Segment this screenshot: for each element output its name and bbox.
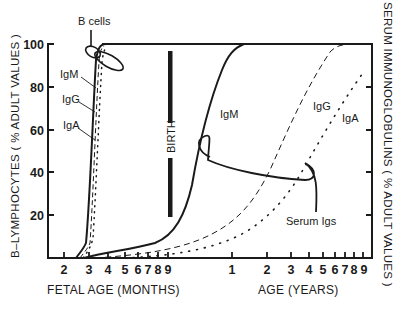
b-cell-igm-label: IgM	[60, 68, 78, 80]
x-tick-year-4: 4	[306, 263, 313, 277]
serum-iga-label: IgA	[342, 112, 359, 124]
b-cell-iga-label: IgA	[63, 119, 80, 131]
y-tick-80: 80	[30, 81, 44, 95]
x-tick-fetal-4: 4	[105, 263, 112, 277]
x-tick-year-5: 5	[320, 263, 327, 277]
x-axis-title-years: AGE (YEARS)	[258, 283, 339, 297]
b-cell-curves	[76, 44, 106, 258]
x-tick-year-8: 8	[351, 263, 358, 277]
b-cells-label: B cells	[78, 15, 111, 27]
x-tick-fetal-3: 3	[86, 263, 93, 277]
x-tick-fetal-6: 6	[135, 263, 142, 277]
birth-bar-bottom	[168, 158, 173, 217]
left-y-axis-title: B–LYMPHOCYTES ( % ADULT VALUES )	[9, 34, 21, 258]
x-tick-fetal-9: 9	[165, 263, 172, 277]
x-tick-year-1: 1	[229, 263, 236, 277]
serum-iga-curve	[125, 70, 365, 258]
birth-bar-top	[168, 51, 173, 123]
right-y-axis-title: SERUM IMMUNOGLOBULINS ( % ADULT VALUES )	[382, 2, 394, 287]
x-axis-title-fetal: FETAL AGE (MONTHS)	[47, 283, 180, 297]
y-tick-20: 20	[30, 209, 44, 223]
birth-label: BIRTH	[165, 120, 177, 153]
x-tick-fetal-2: 2	[61, 263, 68, 277]
x-tick-year-2: 2	[264, 263, 271, 277]
x-tick-year-9: 9	[361, 263, 368, 277]
x-tick-fetal-5: 5	[122, 263, 129, 277]
x-tick-fetal-7: 7	[145, 263, 152, 277]
b-cells-callout	[84, 30, 126, 74]
left-y-tick-labels: 100 80 60 40 20	[23, 38, 44, 223]
y-tick-60: 60	[30, 124, 44, 138]
x-tick-year-7: 7	[342, 263, 349, 277]
y-tick-100: 100	[23, 38, 44, 52]
x-tick-labels-fetal: 2 3 4 5 6 7 8 9	[61, 263, 172, 277]
y-tick-40: 40	[30, 166, 44, 180]
serum-igm-curve	[84, 44, 244, 258]
serum-igg-label: IgG	[313, 100, 331, 112]
x-tick-year-3: 3	[288, 263, 295, 277]
serum-igs-callout	[199, 136, 317, 212]
birth-marker: BIRTH	[165, 51, 177, 217]
serum-igs-label: Serum Igs	[286, 215, 337, 227]
immunoglobulin-development-chart: 100 80 60 40 20 2 3 4 5 6 7 8 9 1	[0, 0, 403, 311]
serum-igm-label: IgM	[220, 108, 238, 120]
x-tick-year-6: 6	[332, 263, 339, 277]
x-tick-labels-years: 1 2 3 4 5 6 7 8 9	[229, 263, 368, 277]
b-cell-igg-label: IgG	[62, 93, 80, 105]
x-tick-fetal-8: 8	[155, 263, 162, 277]
